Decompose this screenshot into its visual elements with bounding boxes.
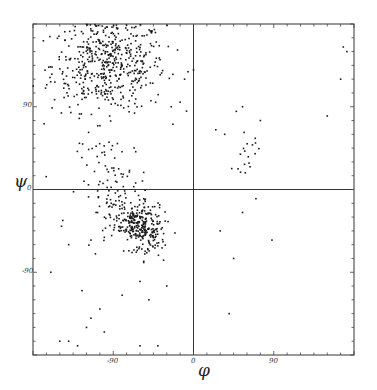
x-tick-label-neg90: -90 <box>107 357 118 365</box>
data-points <box>32 24 347 347</box>
y-tick-label-90: 90 <box>23 101 32 109</box>
x-tick-label-90: 90 <box>269 357 278 365</box>
psi-axis-label: ψ <box>14 171 27 191</box>
y-tick-label-neg90: -90 <box>22 267 33 275</box>
ramachandran-plot <box>0 0 377 390</box>
y-tick-label-0: 0 <box>27 184 31 192</box>
phi-axis-label: φ <box>198 360 210 380</box>
plot-frame <box>33 24 354 355</box>
x-tick-label-0: 0 <box>191 357 195 365</box>
